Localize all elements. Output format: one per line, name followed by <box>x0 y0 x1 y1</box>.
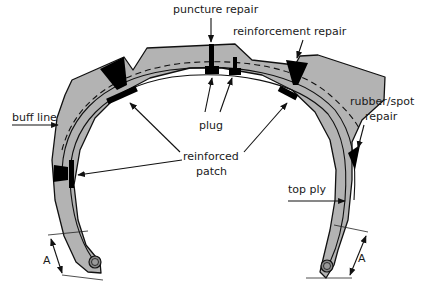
label-dimension-a-left: A <box>43 254 51 267</box>
tire-cross-section-diagram: puncture repair reinforcement repair buf… <box>0 0 425 290</box>
label-puncture-repair: puncture repair <box>173 3 259 16</box>
label-reinforced: reinforced <box>183 150 239 163</box>
label-rubber-spot: rubber/spot <box>350 95 415 108</box>
label-reinforcement-repair: reinforcement repair <box>233 25 347 38</box>
arrow-patch-left <box>130 103 180 152</box>
label-plug: plug <box>199 119 223 132</box>
arrow-patch-sidewall <box>78 160 182 175</box>
label-top-ply: top ply <box>288 183 327 196</box>
label-buff-line: buff line <box>12 111 57 124</box>
label-patch: patch <box>196 165 227 178</box>
arrow-plug-right <box>220 78 232 112</box>
arrow-rubber-spot-repair <box>358 125 364 148</box>
plug-right <box>229 68 241 75</box>
dimension-arrow-left <box>51 239 62 273</box>
arrow-patch-right <box>244 103 287 152</box>
arrow-plug-left <box>205 78 212 112</box>
reinforced-patch-sidewall <box>69 160 74 188</box>
sidewall-repair-left <box>53 165 68 182</box>
right-bead-core <box>324 263 331 270</box>
plug-left <box>205 66 219 74</box>
left-bead-core <box>92 259 99 266</box>
dimension-line-left-bottom <box>62 275 103 280</box>
label-rubber-spot-repair: repair <box>365 110 398 123</box>
